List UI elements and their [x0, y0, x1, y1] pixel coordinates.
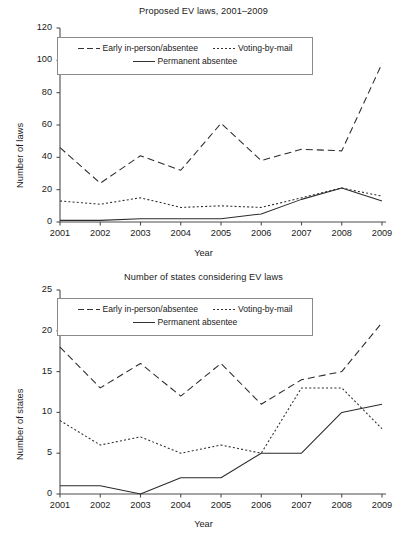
chart-panel-states-considering: Number of states considering EV laws Num…: [0, 266, 407, 534]
chart-panel-proposed-ev-laws: Proposed EV laws, 2001–2009 Number of la…: [0, 0, 407, 268]
legend-label-series2-bottom: Voting-by-mail: [238, 304, 292, 314]
legend-label-series2-top: Voting-by-mail: [238, 43, 292, 53]
series-line: [60, 404, 382, 494]
legend-item-permanent-absentee-bottom: Permanent absentee: [133, 317, 238, 327]
two-panel-line-chart-figure: Proposed EV laws, 2001–2009 Number of la…: [0, 0, 407, 534]
legend-swatch-solid-icon: [133, 58, 155, 65]
legend-swatch-solid-icon: [133, 319, 155, 326]
legend-label-series3-bottom: Permanent absentee: [158, 317, 238, 327]
legend-top: Early in-person/absentee Voting-by-mail …: [57, 37, 313, 75]
legend-item-permanent-absentee-top: Permanent absentee: [133, 56, 238, 66]
legend-swatch-dotted-icon: [213, 45, 235, 52]
series-line: [60, 188, 382, 207]
legend-bottom: Early in-person/absentee Voting-by-mail …: [57, 298, 313, 336]
series-line: [60, 188, 382, 220]
series-line: [60, 64, 382, 184]
legend-item-early-in-person-bottom: Early in-person/absentee: [78, 304, 199, 314]
legend-label-series3-top: Permanent absentee: [158, 56, 238, 66]
legend-swatch-dotted-icon: [213, 306, 235, 313]
legend-item-voting-by-mail-top: Voting-by-mail: [213, 43, 292, 53]
legend-item-voting-by-mail-bottom: Voting-by-mail: [213, 304, 292, 314]
legend-label-series1-top: Early in-person/absentee: [103, 43, 199, 53]
legend-swatch-dashed-icon: [78, 306, 100, 313]
legend-item-early-in-person-top: Early in-person/absentee: [78, 43, 199, 53]
x-axis-label-top: Year: [0, 248, 407, 258]
legend-label-series1-bottom: Early in-person/absentee: [103, 304, 199, 314]
legend-swatch-dashed-icon: [78, 45, 100, 52]
x-axis-label-bottom: Year: [0, 519, 407, 529]
